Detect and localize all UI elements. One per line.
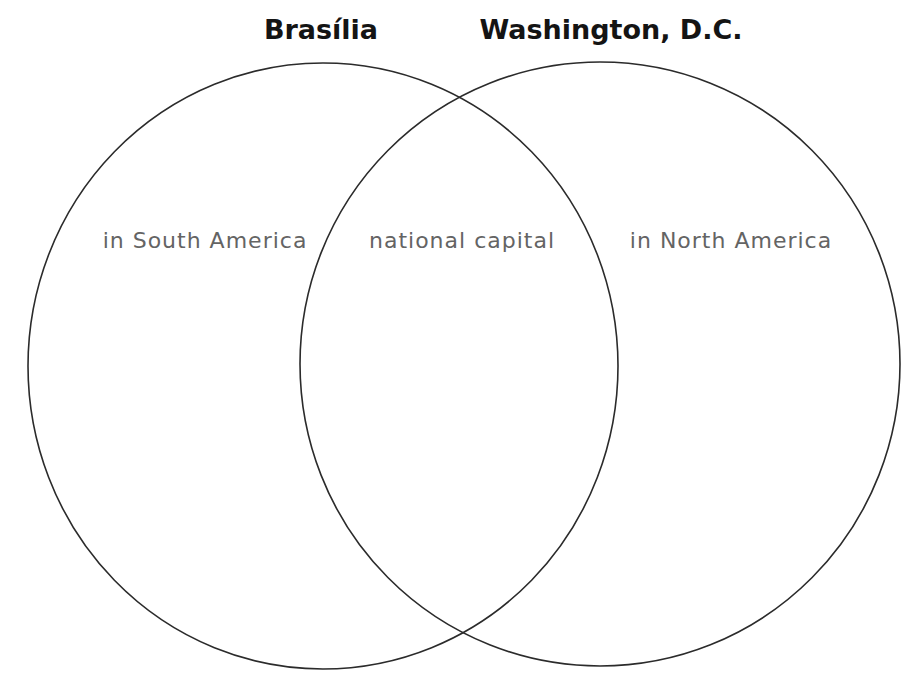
right-circle-outline: [300, 62, 900, 666]
left-circle-title: Brasília: [264, 15, 378, 45]
left-circle-outline: [28, 63, 618, 669]
venn-circles: [0, 0, 920, 699]
left-region-label: in South America: [103, 228, 308, 254]
right-circle-title: Washington, D.C.: [479, 15, 742, 45]
venn-diagram: Brasília Washington, D.C. in South Ameri…: [0, 0, 920, 699]
right-region-label: in North America: [630, 228, 832, 254]
intersection-region-label: national capital: [369, 228, 555, 254]
